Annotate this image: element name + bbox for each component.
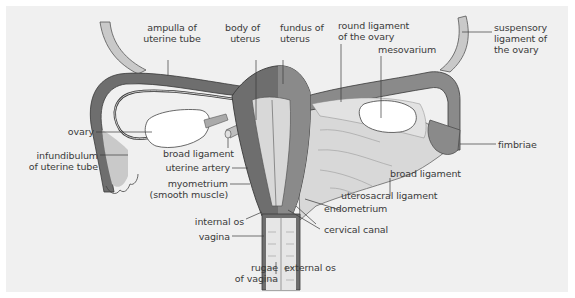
left-ovary xyxy=(145,109,209,147)
label-line: ligament of xyxy=(494,33,547,44)
label-myometrium: myometrium (smooth muscle) xyxy=(140,178,228,200)
label-line: (smooth muscle) xyxy=(140,189,228,200)
label-line: myometrium xyxy=(140,178,228,189)
label-line: round ligament xyxy=(338,20,409,31)
label-line: uterus xyxy=(224,33,260,44)
label-fimbriae: fimbriae xyxy=(498,139,537,150)
label-ovary: ovary xyxy=(40,126,94,137)
label-line: infundibulum xyxy=(20,150,98,161)
label-suspensory-ligament: suspensory ligament of the ovary xyxy=(494,22,547,55)
label-line: of uterine tube xyxy=(20,161,98,172)
label-mesovarium: mesovarium xyxy=(378,44,436,55)
label-line: of vagina xyxy=(230,273,278,284)
label-round-ligament: round ligament of the ovary xyxy=(338,20,409,42)
left-suspensory-ligament xyxy=(100,22,146,74)
label-line: the ovary xyxy=(494,44,547,55)
label-uterosacral-ligament: uterosacral ligament xyxy=(341,190,437,201)
label-line: fundus of xyxy=(280,22,324,33)
label-external-os: external os xyxy=(284,262,336,273)
right-suspensory-ligament xyxy=(440,16,468,72)
label-uterine-artery: uterine artery xyxy=(150,162,230,173)
label-vagina: vagina xyxy=(180,231,230,242)
label-line: uterine tube xyxy=(142,33,202,44)
label-rugae: rugae of vagina xyxy=(230,262,278,284)
label-line: rugae xyxy=(230,262,278,273)
label-ampulla: ampulla of uterine tube xyxy=(142,22,202,44)
label-fundus: fundus of uterus xyxy=(280,22,324,44)
label-line: of the ovary xyxy=(338,31,409,42)
label-line: suspensory xyxy=(494,22,547,33)
label-cervical-canal: cervical canal xyxy=(324,224,388,235)
label-line: body of xyxy=(224,22,260,33)
label-line: uterus xyxy=(280,33,324,44)
label-endometrium: endometrium xyxy=(324,203,387,214)
uterus-anatomy-illustration xyxy=(0,0,575,298)
label-broad-ligament-right: broad ligament xyxy=(390,168,461,179)
label-broad-ligament-left: broad ligament xyxy=(150,148,234,159)
label-line: ampulla of xyxy=(142,22,202,33)
label-infundibulum: infundibulum of uterine tube xyxy=(20,150,98,172)
label-body-of-uterus: body of uterus xyxy=(224,22,260,44)
label-internal-os: internal os xyxy=(180,216,244,227)
